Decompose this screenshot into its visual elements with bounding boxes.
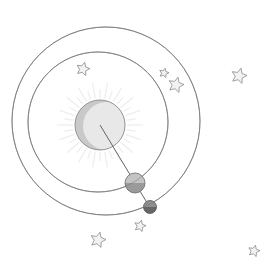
star-icon [91, 232, 106, 247]
star-icon [249, 245, 260, 256]
sun-highlight [83, 102, 131, 150]
star-icon [135, 220, 146, 231]
orbit-diagram [0, 0, 263, 263]
sun [75, 100, 131, 150]
star-icon [232, 68, 247, 83]
moon-shadow [144, 207, 157, 214]
planet-shadow [125, 183, 145, 193]
star-icon [169, 77, 184, 92]
diagram-canvas [0, 0, 263, 263]
star-icon [77, 62, 90, 75]
star-icon [160, 68, 169, 77]
alignment-line [100, 125, 152, 211]
moon [144, 201, 157, 214]
stars [77, 62, 260, 256]
